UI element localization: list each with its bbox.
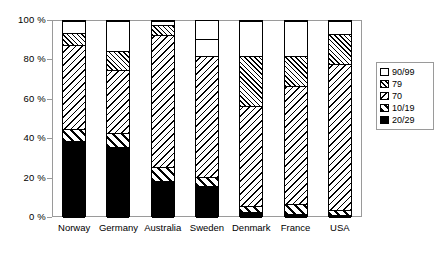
bar-segment-70[interactable]: [196, 56, 218, 176]
bar-segment-90-99[interactable]: [63, 21, 85, 33]
legend-label: 79: [392, 79, 402, 89]
bar-segment-70[interactable]: [107, 70, 129, 133]
bar-segment-70[interactable]: [240, 106, 262, 206]
legend-item[interactable]: 20/29: [380, 114, 430, 126]
bar-segment-79[interactable]: [285, 56, 307, 86]
stacked-bar-chart: 0 %20 %40 %60 %80 %100 % NorwayGermanyAu…: [0, 0, 441, 254]
bar-segment-20-29[interactable]: [240, 212, 262, 218]
legend-swatch-icon: [380, 104, 389, 112]
bar-segment-90-99[interactable]: [285, 21, 307, 56]
x-axis: NorwayGermanyAustraliaSwedenDenmarkFranc…: [52, 222, 362, 238]
bar-segment-10-19[interactable]: [63, 129, 85, 141]
bar-segment-79[interactable]: [107, 51, 129, 71]
y-tick-label: 80 %: [0, 54, 46, 64]
legend-label: 10/19: [392, 103, 415, 113]
legend-swatch-icon: [380, 68, 389, 76]
stacked-bar[interactable]: [239, 20, 263, 217]
x-tick-label-france: France: [273, 222, 317, 234]
y-tick-label: 40 %: [0, 133, 46, 143]
bars-layer: [52, 20, 362, 217]
bar-group-france[interactable]: [273, 20, 317, 217]
x-tick-label-norway: Norway: [52, 222, 96, 234]
legend-swatch-icon: [380, 92, 389, 100]
legend-item[interactable]: 70: [380, 90, 430, 102]
x-tick-label-usa: USA: [318, 222, 362, 234]
x-tick-label-denmark: Denmark: [229, 222, 273, 234]
bar-segment-10-19[interactable]: [285, 204, 307, 214]
bar-segment-10-19[interactable]: [329, 210, 351, 215]
bar-segment-20-29[interactable]: [152, 181, 174, 218]
bar-segment-20-29[interactable]: [196, 186, 218, 218]
bar-segment-90-99[interactable]: [196, 39, 218, 57]
bar-segment-70[interactable]: [329, 64, 351, 210]
legend-label: 70: [392, 91, 402, 101]
bar-group-sweden[interactable]: [185, 20, 229, 217]
bar-segment-79[interactable]: [329, 34, 351, 65]
bar-segment-90-99[interactable]: [152, 21, 174, 25]
bar-segment-90-99[interactable]: [329, 21, 351, 34]
bar-segment-10-19[interactable]: [240, 206, 262, 212]
bar-segment-10-19[interactable]: [152, 167, 174, 181]
bar-segment-70[interactable]: [285, 86, 307, 204]
bar-segment-10-19[interactable]: [107, 133, 129, 147]
bar-segment-79[interactable]: [63, 33, 85, 45]
stacked-bar[interactable]: [106, 20, 130, 217]
legend-item[interactable]: 10/19: [380, 102, 430, 114]
legend-item[interactable]: 90/99: [380, 66, 430, 78]
bar-group-usa[interactable]: [318, 20, 362, 217]
bar-group-germany[interactable]: [96, 20, 140, 217]
bar-segment-20-29[interactable]: [107, 147, 129, 218]
stacked-bar[interactable]: [62, 20, 86, 217]
x-tick-label-germany: Germany: [96, 222, 140, 234]
chart-legend: 90/99797010/1920/29: [376, 62, 434, 130]
bar-segment-20-29[interactable]: [285, 214, 307, 218]
bar-segment-79[interactable]: [240, 56, 262, 105]
bar-segment-70[interactable]: [63, 45, 85, 130]
bar-segment-20-29[interactable]: [329, 215, 351, 218]
y-tick-label: 20 %: [0, 173, 46, 183]
bar-segment-79[interactable]: [152, 25, 174, 35]
y-tick-mark: [47, 217, 52, 218]
bar-segment-20-29[interactable]: [63, 141, 85, 218]
legend-item[interactable]: 79: [380, 78, 430, 90]
y-tick-label: 60 %: [0, 94, 46, 104]
bar-group-australia[interactable]: [141, 20, 185, 217]
stacked-bar[interactable]: [284, 20, 308, 217]
bar-segment-70[interactable]: [152, 35, 174, 167]
legend-swatch-icon: [380, 80, 389, 88]
x-tick-label-australia: Australia: [141, 222, 185, 234]
legend-label: 20/29: [392, 115, 415, 125]
bar-segment-90-99[interactable]: [240, 21, 262, 56]
bar-segment-10-19[interactable]: [196, 177, 218, 187]
y-tick-label: 100 %: [0, 15, 46, 25]
stacked-bar[interactable]: [151, 20, 175, 217]
legend-label: 90/99: [392, 67, 415, 77]
x-tick-label-sweden: Sweden: [185, 222, 229, 234]
bar-group-denmark[interactable]: [229, 20, 273, 217]
y-tick-label: 0 %: [0, 212, 46, 222]
stacked-bar[interactable]: [195, 20, 219, 217]
stacked-bar[interactable]: [328, 20, 352, 217]
y-axis: 0 %20 %40 %60 %80 %100 %: [0, 20, 46, 217]
bar-segment-90-99[interactable]: [107, 21, 129, 51]
legend-swatch-icon: [380, 116, 389, 124]
bar-group-norway[interactable]: [52, 20, 96, 217]
